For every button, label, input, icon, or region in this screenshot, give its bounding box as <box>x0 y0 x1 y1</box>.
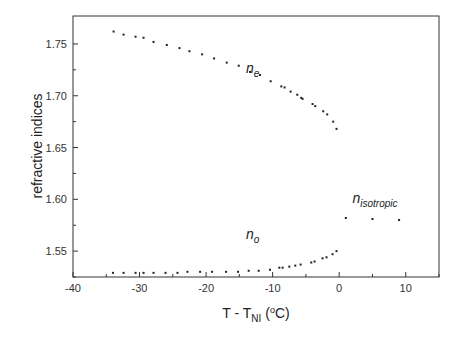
data-point-n-o <box>294 265 296 267</box>
data-point-n-isotropic <box>398 219 400 221</box>
data-point-n-e <box>113 31 115 33</box>
x-axis-ticks: -40-30-20-10010 <box>65 272 439 294</box>
annotation-n-o: no <box>246 226 260 245</box>
refractive-index-chart: -40-30-20-10010 1.551.601.651.701.75 nen… <box>0 0 460 341</box>
data-point-n-o <box>164 272 166 274</box>
data-point-n-e <box>166 44 168 46</box>
data-point-n-e <box>238 65 240 67</box>
annotation-n-isotropic: nisotropic <box>352 190 397 209</box>
y-tick-label: 1.70 <box>46 90 67 102</box>
data-point-n-e <box>270 80 272 82</box>
data-point-n-o <box>123 272 125 274</box>
data-point-n-e <box>312 103 314 105</box>
x-tick-label: 10 <box>400 282 412 294</box>
data-point-n-e <box>178 47 180 49</box>
data-point-n-o <box>336 250 338 252</box>
data-point-n-o <box>225 271 227 273</box>
data-point-n-o <box>300 264 302 266</box>
y-tick-label: 1.60 <box>46 193 67 205</box>
data-point-n-e <box>135 36 137 38</box>
x-axis-label-main: T - T <box>222 305 251 321</box>
data-point-n-e <box>280 85 282 87</box>
x-tick-label: -10 <box>265 282 281 294</box>
data-point-n-e <box>302 98 304 100</box>
data-point-n-isotropic <box>371 218 373 220</box>
data-point-n-e <box>284 86 286 88</box>
data-point-n-isotropic <box>345 217 347 219</box>
data-point-n-e <box>326 113 328 115</box>
x-axis-label: T - TNI (oC) <box>222 305 289 324</box>
data-point-n-e <box>322 110 324 112</box>
y-tick-label: 1.65 <box>46 142 67 154</box>
x-axis-label-sub: NI <box>251 313 261 324</box>
data-point-n-e <box>314 105 316 107</box>
data-point-n-o <box>269 269 271 271</box>
x-axis-label-unit-close: C) <box>275 305 290 321</box>
data-point-n-o <box>310 262 312 264</box>
data-point-n-o <box>282 267 284 269</box>
x-axis-label-unit-open: ( <box>261 305 270 321</box>
data-point-n-o <box>176 272 178 274</box>
y-tick-label: 1.75 <box>46 38 67 50</box>
data-point-n-e <box>188 50 190 52</box>
data-point-n-e <box>143 37 145 39</box>
x-tick-label: -20 <box>198 282 214 294</box>
x-tick-label: 0 <box>336 282 342 294</box>
data-point-n-o <box>326 256 328 258</box>
data-point-n-e <box>290 91 292 93</box>
data-point-n-o <box>211 271 213 273</box>
data-point-n-o <box>288 266 290 268</box>
data-point-n-o <box>135 272 137 274</box>
data-point-n-o <box>322 257 324 259</box>
series-annotations: nenonisotropic <box>246 60 398 245</box>
data-point-n-e <box>213 57 215 59</box>
y-tick-label: 1.55 <box>46 245 67 257</box>
data-point-n-o <box>248 270 250 272</box>
data-point-n-o <box>332 253 334 255</box>
y-axis-label: refractive indices <box>29 93 45 198</box>
data-point-n-e <box>226 62 228 64</box>
data-point-n-o <box>258 270 260 272</box>
data-point-n-o <box>237 271 239 273</box>
annotation-n-e: ne <box>246 60 260 79</box>
data-point-n-e <box>296 94 298 96</box>
x-tick-label: -40 <box>65 282 81 294</box>
data-point-n-o <box>314 260 316 262</box>
data-point-n-e <box>201 53 203 55</box>
data-point-n-o <box>199 271 201 273</box>
data-point-n-o <box>186 271 188 273</box>
data-point-n-o <box>112 272 114 274</box>
data-point-n-o <box>143 272 145 274</box>
data-point-n-e <box>336 128 338 130</box>
data-point-n-e <box>153 41 155 43</box>
data-point-n-o <box>153 272 155 274</box>
data-point-n-e <box>332 121 334 123</box>
data-point-n-o <box>278 267 280 269</box>
x-tick-label: -30 <box>132 282 148 294</box>
data-point-n-e <box>123 34 125 36</box>
